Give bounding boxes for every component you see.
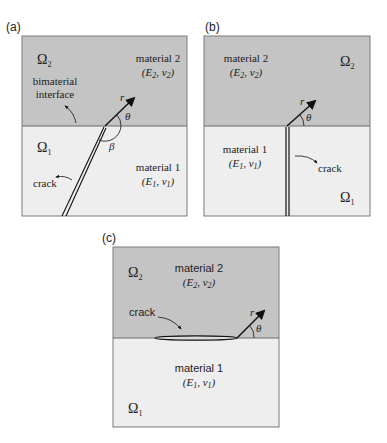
material-2-label: material 2	[136, 52, 180, 64]
material-1-label: material 1	[175, 362, 223, 374]
panel-label-b: (b)	[205, 20, 220, 34]
material-1-label: material 1	[223, 143, 267, 155]
material-2-label: material 2	[175, 262, 223, 274]
panel-a: (a) Ω2 Ω1 material 2 (E2, ν2) bimaterial…	[6, 20, 187, 216]
theta-label: θ	[125, 110, 131, 122]
material-2-properties: (E2, ν2)	[230, 66, 263, 80]
panel-b: (b) Ω2 Ω1 material 2 (E2, ν2) material 1…	[204, 20, 370, 216]
bimaterial-crack-diagram: (a) Ω2 Ω1 material 2 (E2, ν2) bimaterial…	[0, 0, 387, 443]
crack-label: crack	[318, 162, 342, 174]
r-label: r	[300, 95, 305, 107]
material-2-region	[113, 247, 279, 338]
material-2-region	[204, 36, 370, 126]
panel-label-c: (c)	[102, 231, 116, 245]
r-label: r	[250, 306, 255, 318]
panel-label-a: (a)	[6, 20, 21, 34]
crack-label: crack	[33, 177, 57, 189]
interface-label-line1: bimaterial	[33, 75, 78, 87]
material-1-properties: (E1, ν1)	[229, 157, 262, 171]
material-1-properties: (E1, ν1)	[142, 175, 175, 189]
interface-label-line2: interface	[36, 88, 75, 100]
theta-label: θ	[256, 322, 262, 334]
r-label: r	[120, 91, 125, 103]
theta-label: θ	[306, 111, 312, 123]
material-2-properties: (E2, ν2)	[183, 276, 216, 290]
beta-label: β	[108, 140, 115, 152]
interface-crack	[155, 336, 237, 340]
panel-c: (c) Ω2 Ω1 material 2 (E2, ν2) material 1…	[102, 231, 279, 427]
material-2-properties: (E2, ν2)	[142, 66, 175, 80]
material-1-label: material 1	[136, 161, 180, 173]
crack-label: crack	[129, 306, 156, 318]
material-1-properties: (E1, ν1)	[183, 376, 216, 390]
material-2-label: material 2	[224, 52, 268, 64]
